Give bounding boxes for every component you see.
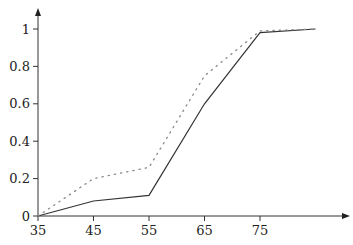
y-tick-label: 0 [22,209,30,224]
x-tick-label: 45 [85,223,102,238]
x-axis-arrow-icon [342,213,350,219]
x-tick-label: 65 [196,223,213,238]
series-lines [38,29,316,216]
y-tick-label: 0.2 [9,171,30,186]
y-tick-label: 0.4 [9,134,30,149]
y-tick-label: 1 [22,22,30,37]
tick-labels: 354555657500.20.40.60.81 [9,22,268,239]
y-axis-arrow-icon [35,8,41,16]
x-tick-label: 55 [141,223,158,238]
y-tick-label: 0.8 [9,59,30,74]
x-tick-label: 75 [252,223,269,238]
x-tick-label: 35 [30,223,47,238]
series-line-dotted [38,29,316,216]
line-chart: 354555657500.20.40.60.81 [0,0,353,245]
y-tick-label: 0.6 [9,96,30,111]
axes [33,8,350,221]
